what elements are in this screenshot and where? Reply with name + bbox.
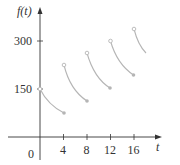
open-circle-marker bbox=[109, 39, 113, 43]
x-axis-label: t bbox=[156, 140, 160, 154]
open-circle-marker bbox=[132, 27, 136, 31]
x-axis-arrow-icon bbox=[155, 135, 162, 140]
x-tick-label-16: 16 bbox=[128, 143, 140, 157]
filled-dot-marker bbox=[132, 73, 136, 77]
open-circle-marker bbox=[85, 51, 89, 55]
open-circle-marker bbox=[38, 87, 42, 91]
x-tick-label-8: 8 bbox=[84, 143, 90, 157]
curve-segment-3 bbox=[87, 53, 110, 88]
curve-segment-5 bbox=[134, 29, 146, 53]
chart: f(t) t 0 4 8 12 16 150 300 bbox=[0, 0, 180, 165]
curves bbox=[40, 29, 146, 113]
curve-segment-1 bbox=[40, 89, 64, 113]
filled-dot-marker bbox=[62, 111, 66, 115]
open-circle-marker bbox=[62, 63, 66, 67]
y-tick-label-300: 300 bbox=[14, 34, 32, 48]
x-tick-label-4: 4 bbox=[60, 143, 66, 157]
curve-segment-4 bbox=[111, 41, 134, 75]
x-tick-label-12: 12 bbox=[104, 143, 116, 157]
filled-dot-marker bbox=[85, 99, 89, 103]
curve-segment-2 bbox=[64, 65, 87, 101]
filled-dot-marker bbox=[108, 86, 112, 90]
y-tick-label-150: 150 bbox=[14, 82, 32, 96]
markers bbox=[38, 27, 136, 115]
y-axis-arrow-icon bbox=[38, 7, 43, 14]
origin-label: 0 bbox=[28, 147, 34, 161]
y-axis-label: f(t) bbox=[17, 4, 32, 18]
